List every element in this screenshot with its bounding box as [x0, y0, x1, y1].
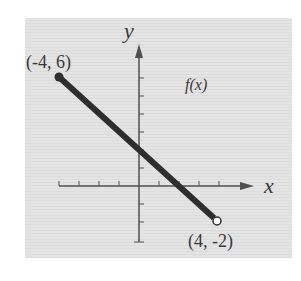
x-axis — [59, 181, 254, 190]
start-point-label: (-4, 6) — [26, 52, 71, 73]
function-line — [59, 77, 214, 218]
open-endpoint-circle — [213, 217, 221, 225]
function-label: f(x) — [185, 76, 207, 94]
end-point-label: (4, -2) — [188, 231, 233, 252]
y-axis-label: y — [122, 18, 134, 43]
closed-endpoint-dot — [55, 73, 64, 82]
x-axis-label: x — [263, 173, 274, 198]
x-axis-arrow-icon — [240, 182, 254, 190]
graph: y x f(x) (-4, 6) (4, -2) — [0, 0, 301, 281]
y-axis-arrow-icon — [135, 44, 143, 58]
